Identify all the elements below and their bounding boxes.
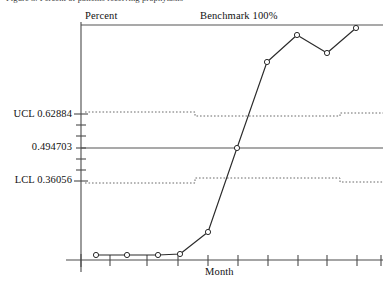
center-line-label: 0.494703	[0, 141, 72, 152]
data-point	[205, 229, 210, 234]
control-chart: Figure 3. Percent of patients receiving …	[0, 0, 387, 285]
data-point	[353, 25, 358, 30]
data-point	[155, 252, 160, 257]
ucl-label: UCL 0.62884	[0, 108, 72, 119]
x-axis-title: Month	[205, 266, 234, 277]
data-point	[93, 252, 98, 257]
data-point	[124, 252, 129, 257]
lcl-label: LCL 0.36056	[0, 174, 72, 185]
y-axis-header-label: Percent	[85, 10, 118, 21]
data-point	[324, 50, 329, 55]
benchmark-label: Benchmark 100%	[200, 10, 278, 21]
data-series-line	[96, 28, 356, 255]
data-point	[264, 59, 269, 64]
data-point-markers	[93, 25, 358, 257]
ucl-line	[85, 112, 383, 116]
data-point	[234, 145, 239, 150]
data-point	[177, 251, 182, 256]
lcl-line	[85, 178, 383, 183]
data-point	[294, 32, 299, 37]
